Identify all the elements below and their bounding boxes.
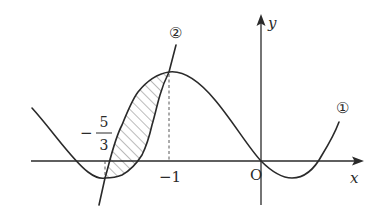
curve-2-label: ② bbox=[169, 24, 182, 42]
curve-1-label: ① bbox=[336, 99, 349, 117]
tick-label-minus-one: −1 bbox=[159, 168, 181, 186]
tick-label-minus-five-thirds: − 5 3 bbox=[80, 114, 112, 153]
fraction-numerator: 5 bbox=[100, 114, 109, 130]
fraction-sign: − bbox=[80, 124, 93, 142]
fraction-denominator: 3 bbox=[100, 137, 109, 153]
origin-label: O bbox=[250, 166, 262, 184]
y-axis-label: y bbox=[267, 14, 277, 32]
curve-1 bbox=[32, 72, 339, 179]
function-graph-figure: ② ① y x O −1 − 5 3 bbox=[0, 0, 388, 211]
x-axis-label: x bbox=[350, 169, 359, 187]
x-axis bbox=[31, 157, 364, 166]
